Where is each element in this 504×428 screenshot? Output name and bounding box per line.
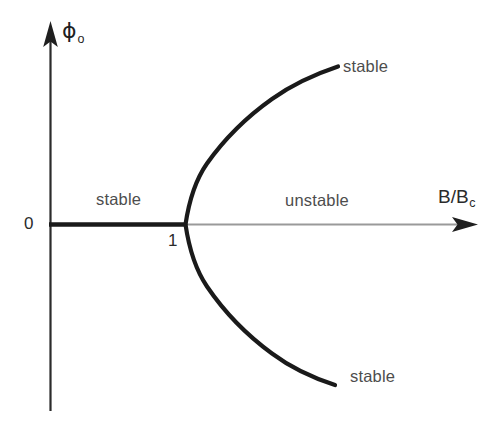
tick-label-critical: 1 [168, 232, 177, 249]
y-axis-label: ϕo [62, 20, 83, 42]
annotation-lower-stable: stable [350, 368, 395, 385]
y-axis-label-symbol: ϕ [62, 18, 77, 43]
annotation-upper-stable: stable [343, 58, 388, 75]
bifurcation-plot-canvas [0, 0, 504, 428]
annotation-left-stable: stable [96, 191, 141, 208]
lower-stable-branch [186, 225, 336, 386]
y-axis-label-subscript: o [78, 32, 85, 46]
x-axis-label-main: B/B [438, 186, 469, 207]
bifurcation-diagram-figure: ϕo B/Bc 0 1 stable unstable stable stabl… [0, 0, 504, 428]
x-axis-label: B/Bc [438, 187, 475, 206]
x-axis-label-subscript: c [469, 196, 475, 210]
annotation-unstable: unstable [285, 192, 349, 209]
tick-label-origin: 0 [24, 215, 33, 232]
